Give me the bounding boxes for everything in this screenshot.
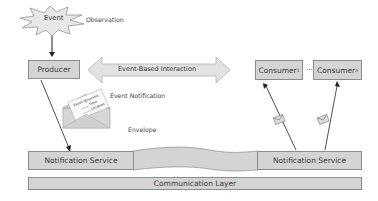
consumer-n-label: Consumer: [317, 66, 355, 75]
mini-envelope-icon-n: [317, 114, 329, 124]
event-notification-label: Event Notification: [110, 92, 165, 99]
notification-service-right: Notification Service: [257, 151, 362, 170]
notification-service-left: Notification Service: [28, 151, 134, 170]
consumer-1-subscript: 1: [297, 68, 300, 73]
consumer-1-label: Consumer: [258, 66, 296, 75]
interaction-label: Event-Based Interaction: [118, 65, 196, 73]
diagram-graphics: Event observed Time Location: [0, 0, 378, 201]
envelope-label: Envelope: [128, 126, 157, 133]
communication-layer-label: Communication Layer: [154, 179, 236, 188]
observation-label: Observation: [86, 16, 124, 23]
observation-arrow: [49, 36, 55, 57]
envelope-icon: [63, 89, 110, 128]
communication-layer: Communication Layer: [28, 177, 362, 190]
notification-service-left-label: Notification Service: [44, 156, 117, 165]
consumer-1-box: Consumer1: [255, 60, 303, 80]
producer-box: Producer: [28, 60, 80, 79]
consumer-n-subscript: n: [355, 68, 358, 73]
consumer-n-box: Consumern: [313, 60, 362, 80]
notification-service-right-label: Notification Service: [273, 156, 346, 165]
event-label: Event: [44, 14, 63, 22]
producer-label: Producer: [37, 65, 70, 74]
notification-channel: [133, 147, 258, 171]
consumer-ellipsis: ...: [306, 64, 313, 72]
